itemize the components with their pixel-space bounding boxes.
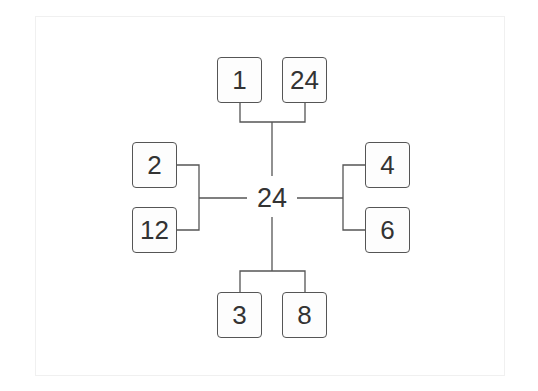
center-number: 24 (247, 182, 297, 214)
factor-box-bottom-left: 3 (217, 292, 262, 338)
factor-box-left-bottom: 12 (132, 207, 177, 253)
factor-box-right-top: 4 (365, 142, 410, 188)
factor-box-bottom-right: 8 (282, 292, 327, 338)
factor-box-right-bottom: 6 (365, 207, 410, 253)
factor-box-top-left: 1 (217, 57, 262, 103)
factor-box-left-top: 2 (132, 142, 177, 188)
factor-box-top-right: 24 (282, 57, 327, 103)
